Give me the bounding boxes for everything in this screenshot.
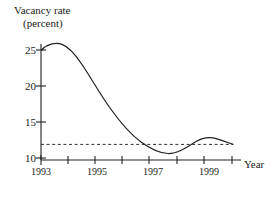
plot-area — [0, 0, 275, 199]
vacancy-rate-curve — [42, 43, 234, 153]
vacancy-rate-chart: Vacancy rate (percent) 25 20 15 10 1993 … — [0, 0, 275, 199]
